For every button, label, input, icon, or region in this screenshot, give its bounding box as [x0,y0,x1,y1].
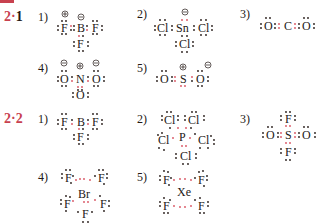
lewis-structure-brf5: FF Br FF F [60,168,116,224]
svg-text:O: O [302,128,311,142]
svg-text:O: O [92,72,101,86]
svg-text:B: B [77,21,85,35]
svg-text:Br: Br [78,187,90,201]
section-number: 2 [16,111,23,126]
svg-text:Cl: Cl [198,21,210,35]
svg-text:F: F [61,21,68,35]
svg-text:Cl: Cl [179,37,191,51]
lewis-structure-so2: OSO [156,63,212,97]
item-number: 2) [137,112,147,127]
svg-text:F: F [92,21,99,35]
svg-text:Cl: Cl [158,133,170,147]
svg-text:F: F [77,37,84,51]
section-label-2-1: 2·1 [4,9,23,25]
item-number: 4) [38,170,48,185]
svg-text:F: F [198,173,205,187]
section-label-2-2: 2·2 [4,111,23,127]
item-number: 2) [137,7,147,22]
svg-text:Cl: Cl [198,133,210,147]
svg-text:C: C [284,19,292,33]
svg-text:B: B [77,115,85,129]
svg-text:Cl: Cl [188,113,200,127]
svg-text:F: F [98,171,105,185]
section-prefix: 2 [4,111,11,126]
svg-text:S: S [180,72,187,86]
lewis-structure-pcl5: ClCl P ClCl Cl [158,110,220,174]
svg-text:F: F [285,112,292,126]
svg-text:O: O [60,72,69,86]
item-number: 1) [38,112,48,127]
svg-text:F: F [64,197,71,211]
svg-text:F: F [61,115,68,129]
svg-text:F: F [92,115,99,129]
svg-text:O: O [160,72,169,86]
svg-text:O: O [266,128,275,142]
svg-text:Cl: Cl [157,21,169,35]
svg-text:F: F [163,199,170,213]
item-number: 4) [38,61,48,76]
lewis-structure-sncl3: ClSnClCl [155,8,215,60]
item-number: 3) [240,112,250,127]
svg-text:N: N [76,72,85,86]
svg-text:Sn: Sn [176,21,189,35]
lewis-structure-xef4: FF Xe FF [158,170,214,222]
svg-text:F: F [77,130,84,144]
lewis-structure-no3: ONOO [58,59,110,111]
lewis-structure-bf3: FBFF [56,110,106,154]
lewis-structure-co2: OCO [260,12,318,40]
svg-text:F: F [285,145,292,159]
item-number: 3) [240,7,250,22]
svg-text:F: F [82,207,89,221]
svg-text:Cl: Cl [164,113,176,127]
item-number: 1) [38,10,48,25]
svg-text:F: F [100,197,107,211]
item-number: 5) [137,61,147,76]
item-number: 5) [137,170,147,185]
lewis-structure-so2f2: F OSO F [262,111,318,167]
svg-text:P: P [179,130,186,144]
section-number: 1 [16,9,23,24]
svg-text:O: O [196,72,205,86]
svg-text:O: O [264,19,273,33]
svg-text:S: S [285,128,292,142]
section-prefix: 2 [4,9,11,24]
header-bar [0,0,14,3]
svg-text:Cl: Cl [180,149,192,163]
svg-text:O: O [302,19,311,33]
svg-text:Xe: Xe [177,185,191,199]
lewis-structure-bf4: FBFF [56,10,106,59]
svg-text:F: F [198,199,205,213]
